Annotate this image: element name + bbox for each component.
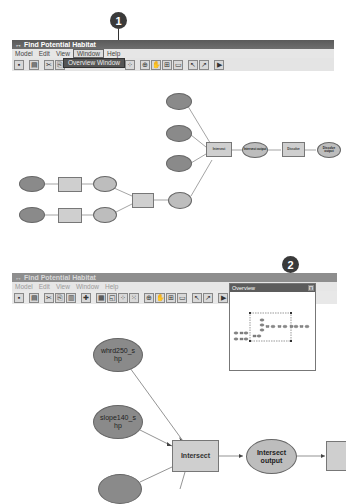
paste-icon[interactable]: ▥ bbox=[66, 293, 76, 303]
d1-tool-1[interactable] bbox=[58, 177, 82, 192]
d2-next-tool[interactable] bbox=[326, 441, 346, 471]
close-icon[interactable]: x bbox=[308, 285, 314, 291]
pan-icon[interactable]: ✋ bbox=[155, 293, 165, 303]
add-data-icon[interactable]: ✚ bbox=[81, 293, 91, 303]
node-label: Intersect output bbox=[254, 449, 290, 465]
d1-dissolve-tool[interactable]: Dissolve bbox=[282, 142, 305, 157]
window1-menubar: Model Edit View Window Help bbox=[12, 49, 334, 58]
d2-intersect-output[interactable]: Intersect output bbox=[246, 439, 297, 474]
zoom-in-icon[interactable]: ⊕ bbox=[144, 293, 154, 303]
menu-edit[interactable]: Edit bbox=[36, 282, 53, 291]
window-menu-dropdown: Overview Window bbox=[63, 58, 125, 68]
overview-window[interactable]: Overview x bbox=[229, 283, 316, 371]
d1-output-1[interactable] bbox=[93, 176, 117, 192]
d1-output-2[interactable] bbox=[93, 207, 117, 223]
d1-intersect-tool[interactable]: Intersect bbox=[206, 142, 232, 157]
d1-input-e[interactable] bbox=[19, 207, 45, 223]
save-icon[interactable]: ▪ bbox=[14, 60, 24, 70]
fit-icon[interactable]: ▭ bbox=[173, 60, 183, 70]
pan-icon[interactable]: ✋ bbox=[151, 60, 161, 70]
d1-input-c[interactable] bbox=[166, 155, 192, 172]
menu-view[interactable]: View bbox=[53, 282, 73, 291]
d1-intersect-output[interactable]: Intersect output bbox=[242, 142, 268, 158]
node-label: whrd250_s hp bbox=[98, 347, 138, 363]
cut-icon[interactable]: ✂ bbox=[44, 60, 54, 70]
window1-titlebar: ↔ Find Potential Habitat bbox=[12, 40, 334, 49]
menu-view[interactable]: View bbox=[53, 49, 73, 58]
d2-input-mid[interactable]: slope140_s hp bbox=[93, 405, 143, 439]
app-icon: ↔ bbox=[15, 274, 24, 281]
full-extent-icon[interactable]: ⁘ bbox=[125, 60, 135, 70]
overview-title: Overview bbox=[232, 285, 255, 291]
menu-help[interactable]: Help bbox=[104, 49, 123, 58]
zoom-out-icon[interactable]: ⊞ bbox=[166, 293, 176, 303]
menu-edit[interactable]: Edit bbox=[36, 49, 53, 58]
save-icon[interactable]: ▪ bbox=[14, 293, 24, 303]
run-icon[interactable]: ▶ bbox=[218, 293, 228, 303]
callout-2: 2 bbox=[282, 256, 299, 273]
zoom-out-icon[interactable]: ⊞ bbox=[162, 60, 172, 70]
layout-icon[interactable]: ◱ bbox=[107, 293, 117, 303]
cut-icon[interactable]: ✂ bbox=[44, 293, 54, 303]
d1-tool-2[interactable] bbox=[58, 208, 82, 223]
menu-window[interactable]: Window bbox=[73, 49, 104, 58]
window2-titlebar: ↔ Find Potential Habitat bbox=[12, 273, 337, 282]
d2-input-top[interactable]: whrd250_s hp bbox=[93, 338, 143, 372]
run-icon[interactable]: ▶ bbox=[214, 60, 224, 70]
node-label: slope140_s hp bbox=[98, 414, 138, 430]
auto-layout-icon[interactable]: ⁘ bbox=[118, 293, 128, 303]
d1-input-b[interactable] bbox=[166, 125, 192, 142]
d1-input-a[interactable] bbox=[166, 93, 192, 110]
window1-title: Find Potential Habitat bbox=[24, 41, 96, 48]
grid-icon[interactable]: ▦ bbox=[96, 293, 106, 303]
node-label: Intersect bbox=[181, 452, 210, 460]
menu-window[interactable]: Window bbox=[73, 282, 102, 291]
full-extent-icon[interactable]: ⁙ bbox=[129, 293, 139, 303]
node-label: Dissolve output bbox=[318, 147, 340, 154]
overview-titlebar[interactable]: Overview x bbox=[230, 284, 315, 292]
menu-model[interactable]: Model bbox=[12, 49, 36, 58]
node-label: Dissolve bbox=[287, 148, 299, 152]
connect-icon[interactable]: ↗ bbox=[203, 293, 213, 303]
node-label: Intersect bbox=[213, 148, 226, 152]
print-icon[interactable]: ▤ bbox=[29, 293, 39, 303]
d1-dissolve-output[interactable]: Dissolve output bbox=[317, 142, 341, 158]
d1-input-d[interactable] bbox=[19, 176, 45, 192]
overview-thumbnail bbox=[230, 292, 315, 370]
menu-item-overview-window[interactable]: Overview Window bbox=[68, 59, 120, 66]
fit-icon[interactable]: ▭ bbox=[177, 293, 187, 303]
menu-help[interactable]: Help bbox=[102, 282, 121, 291]
node-label: Intersect output bbox=[244, 148, 267, 152]
callout-1: 1 bbox=[110, 12, 127, 29]
d2-intersect-tool[interactable]: Intersect bbox=[172, 440, 219, 472]
select-icon[interactable]: ↖ bbox=[192, 293, 202, 303]
connect-icon[interactable]: ↗ bbox=[199, 60, 209, 70]
copy-icon[interactable]: ⎘ bbox=[55, 293, 65, 303]
select-icon[interactable]: ↖ bbox=[188, 60, 198, 70]
callout-number: 1 bbox=[115, 15, 121, 27]
window2-title: Find Potential Habitat bbox=[24, 274, 96, 281]
app-icon: ↔ bbox=[15, 41, 24, 48]
d1-tool-3[interactable] bbox=[132, 193, 154, 208]
zoom-in-icon[interactable]: ⊕ bbox=[140, 60, 150, 70]
print-icon[interactable]: ▤ bbox=[29, 60, 39, 70]
d2-input-bottom[interactable] bbox=[98, 474, 142, 504]
callout-number: 2 bbox=[287, 259, 293, 271]
menu-model[interactable]: Model bbox=[12, 282, 36, 291]
d1-output-3[interactable] bbox=[168, 192, 192, 209]
window1-toolbar: ▪ ▤ ✂ ⎘ ⁘ ⊕ ✋ ⊞ ▭ ↖ ↗ ▶ bbox=[12, 58, 334, 71]
